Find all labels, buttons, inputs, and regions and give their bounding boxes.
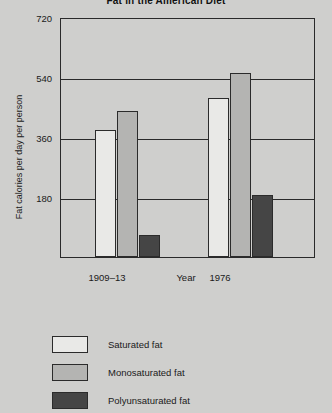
legend-label-saturated-fat: Saturated fat — [108, 339, 162, 350]
chart-title: Fat in the American Diet — [0, 0, 332, 6]
x-group-label-1909-13: 1909–13 — [67, 272, 147, 283]
y-tick-label-360: 360 — [6, 133, 52, 144]
y-tick-label-180: 180 — [6, 193, 52, 204]
legend-item-saturated-fat: Saturated fat — [52, 330, 190, 358]
bar-1909-13-saturated — [95, 130, 116, 257]
y-tick-label-720: 720 — [6, 13, 52, 24]
y-tick-label-540: 540 — [6, 73, 52, 84]
x-group-label-1976: 1976 — [180, 272, 260, 283]
bar-1909-13-monosaturated — [117, 111, 138, 257]
legend-swatch-monosaturated-fat — [52, 364, 88, 381]
legend-swatch-polyunsaturated-fat — [52, 392, 88, 409]
legend-swatch-saturated-fat — [52, 336, 88, 353]
legend-item-polyunsaturated-fat: Polyunsaturated fat — [52, 386, 190, 413]
bar-1909-13-polyunsaturated — [139, 235, 160, 257]
legend-item-monosaturated-fat: Monosaturated fat — [52, 358, 190, 386]
gridline-540 — [61, 79, 314, 80]
chart-legend: Saturated fat Monosaturated fat Polyunsa… — [52, 330, 190, 413]
bar-1976-monosaturated — [230, 73, 251, 257]
legend-label-polyunsaturated-fat: Polyunsaturated fat — [108, 395, 190, 406]
plot-area — [60, 18, 315, 258]
legend-label-monosaturated-fat: Monosaturated fat — [108, 367, 185, 378]
bar-1976-polyunsaturated — [252, 195, 273, 257]
bar-1976-saturated — [208, 98, 229, 257]
